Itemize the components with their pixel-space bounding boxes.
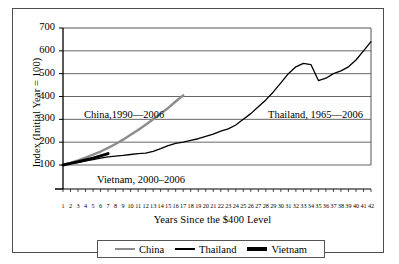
- y-tick-label-700: 700: [25, 21, 55, 32]
- data-series-group: [63, 42, 371, 165]
- legend-swatch-vietnam-icon: [247, 247, 267, 250]
- annotation-china: China,1990—2006: [84, 109, 164, 120]
- gridlines-group: [63, 28, 371, 165]
- legend-swatch-thailand-icon: [175, 248, 195, 249]
- annotation-thailand: Thailand, 1965—2006: [268, 109, 363, 120]
- legend-swatch-china-icon: [115, 248, 135, 251]
- legend-item-vietnam: Vietnam: [247, 244, 307, 255]
- legend-label-vietnam: Vietnam: [271, 244, 307, 255]
- chart-legend: China Thailand Vietnam: [97, 240, 325, 258]
- x-axis-title: Years Since the $400 Level: [13, 214, 399, 225]
- series-line-vietnam: [63, 154, 108, 165]
- chart-figure: 700600500400300200100 123456789101112131…: [0, 0, 399, 264]
- chart-outer-border: 700600500400300200100 123456789101112131…: [12, 8, 384, 253]
- legend-label-china: China: [139, 244, 164, 255]
- legend-item-thailand: Thailand: [175, 244, 236, 255]
- y-axis-title: Index (Initial Year = 100): [31, 48, 42, 178]
- x-tick-label-42: 42: [365, 202, 377, 209]
- annotation-vietnam: Vietnam, 2000–2006: [97, 174, 185, 185]
- series-line-china: [63, 95, 183, 165]
- legend-label-thailand: Thailand: [199, 244, 236, 255]
- legend-item-china: China: [115, 244, 164, 255]
